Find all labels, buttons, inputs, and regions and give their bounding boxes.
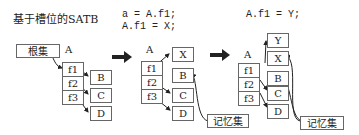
- object-x: X: [172, 47, 194, 62]
- object-b-3: B: [267, 71, 289, 86]
- object-a-label-2: A: [146, 44, 153, 55]
- object-d: D: [90, 106, 112, 121]
- object-c-3: C: [267, 86, 289, 101]
- object-d-2: D: [172, 106, 194, 121]
- root-set-box: 根集: [16, 44, 60, 58]
- field-f1-3: f1: [238, 63, 260, 78]
- field-f2: f2: [62, 76, 84, 91]
- object-y: Y: [267, 33, 289, 48]
- object-x-3: X: [267, 51, 289, 66]
- object-c-2: C: [172, 88, 194, 103]
- object-b: B: [90, 70, 112, 85]
- remembered-set-box-1: 记忆集: [207, 114, 249, 128]
- field-f3-2: f3: [141, 89, 163, 104]
- object-d-3: D: [267, 104, 289, 119]
- field-f3-3: f3: [238, 91, 260, 106]
- field-f1: f1: [62, 62, 84, 77]
- field-f3: f3: [62, 90, 84, 105]
- field-f2-3: f2: [238, 77, 260, 92]
- object-a-label-3: A: [244, 49, 251, 60]
- field-f2-2: f2: [141, 75, 163, 90]
- remembered-set-box-2: 记忆集: [300, 116, 344, 130]
- object-c: C: [90, 88, 112, 103]
- object-a-label: A: [65, 44, 72, 55]
- field-f1-2: f1: [141, 61, 163, 76]
- object-b-2: B: [172, 68, 194, 83]
